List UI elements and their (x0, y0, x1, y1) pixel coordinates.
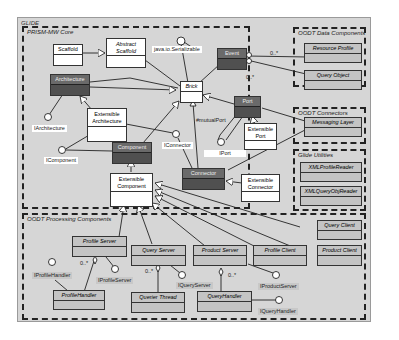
package-label: OODT Data Components (298, 30, 365, 36)
class-messaging-layer[interactable]: Messaging Layer (304, 117, 362, 137)
class-abstract-scaffold[interactable]: AbstractScaffold (106, 38, 146, 68)
interface-iprofile-server: IProfileServer (96, 277, 133, 284)
class-querier-thread[interactable]: Querier Thread (131, 292, 185, 313)
class-query-object[interactable]: Query Object (304, 70, 362, 90)
class-profile-server[interactable]: Profile Server (72, 236, 127, 257)
multiplicity-querier-thread: 0..* (145, 268, 153, 274)
class-event[interactable]: Event (217, 48, 247, 70)
interface-serializable: java.io.Serializable (152, 46, 202, 53)
interface-iport: IPort (204, 150, 246, 157)
class-extensible-port[interactable]: ExtensiblePort (244, 123, 277, 150)
class-resource-profile[interactable]: Resource Profile (304, 43, 362, 63)
class-extensible-architecture[interactable]: ExtensibleArchitecture (87, 108, 127, 142)
class-extensible-connector[interactable]: ExtensibleConnector (241, 174, 280, 202)
class-profile-handler[interactable]: ProfileHandler (53, 290, 105, 310)
class-xml-profile-reader[interactable]: XMLProfileReader (300, 162, 362, 182)
class-scaffold[interactable]: Scaffold (53, 44, 83, 66)
class-query-server[interactable]: Query Server (131, 245, 186, 266)
uml-diagram: GLIDE PRISM-MW Core OODT Data Components… (0, 0, 399, 340)
class-extensible-component[interactable]: ExtensibleComponent (110, 173, 153, 207)
label-mutual-port: #mutualPort (196, 117, 226, 123)
class-product-client[interactable]: Product Client (317, 245, 362, 266)
interface-icomponent: IComponent (44, 157, 78, 164)
interface-iconnector: IConnector (162, 142, 193, 149)
class-connector[interactable]: Connector (182, 168, 225, 190)
package-label: OODT Connectors (298, 110, 348, 116)
interface-iquery-handler: IQueryHandler (258, 308, 298, 315)
class-product-server[interactable]: Product Server (193, 245, 247, 266)
multiplicity-query-handler: 0..* (228, 272, 236, 278)
multiplicity-event-query: 0..* (246, 74, 254, 80)
interface-iproduct-server: IProductServer (258, 283, 299, 290)
multiplicity-event-resource: 0..* (270, 50, 278, 56)
class-query-handler[interactable]: QueryHandler (197, 291, 252, 312)
interface-iarchitecture: IArchitecture (32, 125, 67, 132)
interface-iquery-server: IQueryServer (176, 282, 213, 289)
multiplicity-profile-handler: 0..* (80, 260, 88, 266)
class-profile-client[interactable]: Profile Client (253, 245, 307, 266)
class-query-client[interactable]: Query Client (317, 220, 362, 240)
class-xml-query-obj-reader[interactable]: XMLQueryObjReader (300, 186, 362, 206)
interface-iprofile-handler: IProfileHandler (32, 272, 72, 279)
package-label: Glide Utilities (298, 152, 333, 158)
class-component[interactable]: Component (112, 142, 152, 164)
package-label: PRISM-MW Core (27, 29, 73, 35)
class-architecture[interactable]: Architecture (50, 74, 90, 96)
class-brick[interactable]: Brick (180, 81, 203, 103)
package-label: OODT Processing Components (27, 216, 111, 222)
class-port[interactable]: Port (234, 96, 261, 118)
